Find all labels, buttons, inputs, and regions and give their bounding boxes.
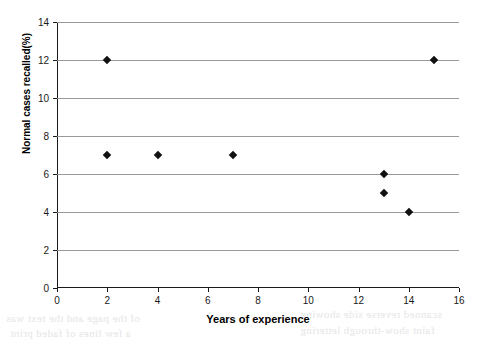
y-tick-mark [53,98,57,99]
y-tick-label: 4 [43,207,49,218]
gridline-horizontal [57,22,459,23]
y-axis-title: Normal cases recalled(%) [21,24,32,164]
gridline-horizontal [57,136,459,137]
gridline-horizontal [57,60,459,61]
scan-bleedthrough-artifact: a few lines of faded print [10,327,131,339]
y-tick-mark [53,174,57,175]
x-tick-mark [409,288,410,292]
x-tick-mark [258,288,259,292]
scatter-chart-figure: of the page and the text was a few lines… [0,0,486,343]
y-tick-label: 0 [43,283,49,294]
x-tick-label: 12 [353,295,364,306]
gridline-horizontal [57,250,459,251]
x-tick-label: 4 [155,295,161,306]
y-tick-mark [53,250,57,251]
x-tick-label: 6 [205,295,211,306]
x-tick-mark [208,288,209,292]
y-tick-mark [53,136,57,137]
gridline-horizontal [57,174,459,175]
x-tick-label: 14 [403,295,414,306]
y-tick-label: 10 [38,93,49,104]
gridline-horizontal [57,212,459,213]
x-tick-label: 10 [303,295,314,306]
y-tick-label: 2 [43,245,49,256]
y-tick-mark [53,60,57,61]
scan-bleedthrough-artifact: faint show-through lettering [300,324,435,336]
y-tick-label: 12 [38,55,49,66]
x-tick-mark [308,288,309,292]
gridline-horizontal [57,98,459,99]
x-tick-mark [107,288,108,292]
y-tick-mark [53,22,57,23]
y-tick-label: 14 [38,17,49,28]
y-tick-mark [53,212,57,213]
x-tick-label: 8 [255,295,261,306]
x-tick-mark [359,288,360,292]
y-tick-label: 8 [43,131,49,142]
axis-frame [57,22,459,288]
plot-area: 02468101214 0246810121416 [57,22,459,288]
x-tick-mark [459,288,460,292]
x-tick-mark [57,288,58,292]
x-tick-label: 16 [453,295,464,306]
y-tick-label: 6 [43,169,49,180]
x-tick-label: 0 [54,295,60,306]
x-tick-mark [158,288,159,292]
x-tick-label: 2 [104,295,110,306]
x-axis-title: Years of experience [57,313,459,325]
